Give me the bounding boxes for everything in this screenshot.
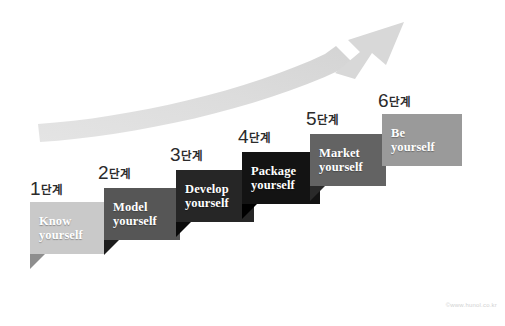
step-caption-1: 1단계: [30, 178, 62, 200]
step-caption-4: 4단계: [238, 126, 270, 148]
step-box-6[interactable]: Be yourself: [382, 114, 462, 166]
step-box-5[interactable]: Market yourself: [310, 134, 386, 186]
step-label-4: Package yourself: [251, 164, 296, 192]
step-box-1[interactable]: Know yourself: [30, 202, 104, 254]
step-label-3: Develop yourself: [185, 182, 229, 210]
step-unit-6: 단계: [389, 96, 410, 108]
step-fold-3: [176, 222, 191, 237]
watermark: ©www.hunol.co.kr: [446, 302, 497, 308]
step-box-2[interactable]: Model yourself: [104, 188, 180, 240]
step-box-4[interactable]: Package yourself: [242, 152, 320, 204]
step-fold-5: [310, 186, 325, 201]
step-unit-2: 단계: [109, 168, 130, 180]
step-number-4: 4: [238, 126, 248, 147]
arrow-band: [38, 46, 352, 142]
step-fold-4: [242, 204, 257, 219]
arrow-head: [335, 22, 404, 79]
step-unit-1: 단계: [41, 184, 62, 196]
step-unit-4: 단계: [249, 132, 270, 144]
step-fold-2: [104, 240, 119, 255]
step-caption-3: 3단계: [170, 144, 202, 166]
step-fold-1: [30, 254, 45, 269]
step-caption-5: 5단계: [306, 108, 338, 130]
step-unit-5: 단계: [317, 114, 338, 126]
step-caption-6: 6단계: [378, 90, 410, 112]
step-number-3: 3: [170, 144, 180, 165]
step-caption-2: 2단계: [98, 162, 130, 184]
step-number-1: 1: [30, 178, 40, 199]
step-number-5: 5: [306, 108, 316, 129]
step-label-5: Market yourself: [319, 146, 363, 174]
step-unit-3: 단계: [181, 150, 202, 162]
staircase-diagram: Know yourself1단계Model yourself2단계Develop…: [0, 0, 505, 326]
step-number-6: 6: [378, 90, 388, 111]
step-label-2: Model yourself: [113, 200, 157, 228]
step-label-1: Know yourself: [39, 214, 83, 242]
step-label-6: Be yourself: [391, 126, 435, 154]
step-number-2: 2: [98, 162, 108, 183]
